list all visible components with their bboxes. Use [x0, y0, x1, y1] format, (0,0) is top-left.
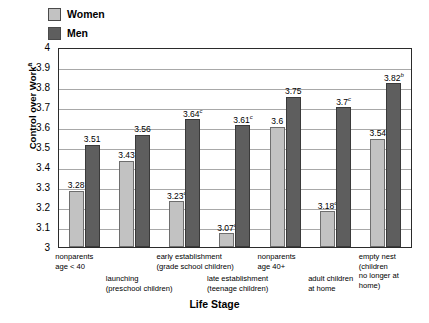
bar-group: 3.63.75 [260, 49, 310, 247]
y-axis-tick-label: 3.8 [22, 82, 50, 93]
category-label-line2: age 40+ [258, 262, 296, 272]
bar-men: 3.64c [185, 119, 200, 247]
bar-chart: Women Men Control over Worka 3.283.513.4… [0, 0, 429, 323]
bar-men: 3.61c [235, 125, 250, 247]
bar-men: 3.82b [386, 83, 401, 247]
x-axis-category-label: nonparentsage 40+ [258, 252, 296, 271]
bar-value-label: 3.23c [167, 190, 187, 201]
x-axis-category-label: adult childrenat home [308, 274, 353, 293]
category-label-line1: empty nest (children [359, 252, 412, 271]
bar-group: 3.23c3.64c [160, 49, 210, 247]
bar-value-label: 3.07c [217, 222, 237, 233]
legend-item-women: Women [48, 6, 105, 23]
bar-value-label: 3.51 [84, 134, 101, 144]
bar-group: 3.543.82b [361, 49, 411, 247]
y-axis-tick-label: 3.9 [22, 62, 50, 73]
bar-men: 3.56 [135, 135, 150, 247]
bar-value-label: 3.6 [271, 116, 283, 126]
category-label-line2: (teenage children) [207, 284, 268, 294]
bar-value-label: 3.54 [370, 128, 387, 138]
legend-item-men: Men [48, 25, 105, 42]
y-axis-tick-label: 3.4 [22, 162, 50, 173]
category-label-line1: launching [106, 274, 173, 284]
bar-men: 3.51 [85, 145, 100, 247]
bar-women: 3.23c [169, 201, 184, 247]
bar-group: 3.07c3.61c [210, 49, 260, 247]
x-axis-title: Life Stage [0, 298, 429, 310]
category-label-line2: at home [308, 284, 353, 294]
bar-group: 3.18c3.7c [310, 49, 360, 247]
y-axis-tick-label: 3.6 [22, 122, 50, 133]
x-axis-category-label: early establishment(grade school childre… [156, 252, 233, 271]
bar-value-label: 3.28 [68, 180, 85, 190]
bar-value-footnote: c [199, 108, 202, 114]
bar-men: 3.75 [286, 97, 301, 247]
category-label-line2: no longer at home) [359, 271, 412, 290]
bar-women: 3.43 [119, 161, 134, 247]
x-axis-category-label: nonparentsage < 40 [55, 252, 93, 271]
bar-men: 3.7c [336, 107, 351, 247]
category-label-line2: age < 40 [55, 262, 93, 272]
category-label-line2: (grade school children) [156, 262, 233, 272]
y-axis-tick-label: 3.7 [22, 102, 50, 113]
category-label-line1: adult children [308, 274, 353, 284]
category-label-line1: late establishment [207, 274, 268, 284]
legend-swatch-women-icon [48, 8, 61, 21]
bar-women: 3.07c [219, 233, 234, 247]
bar-women: 3.28 [69, 191, 84, 247]
bar-value-label: 3.64c [183, 108, 203, 119]
plot-area: 3.283.513.433.563.23c3.64c3.07c3.61c3.63… [58, 48, 412, 248]
chart-legend: Women Men [48, 6, 105, 44]
x-axis-category-label: empty nest (childrenno longer at home) [359, 252, 412, 290]
category-label-line1: early establishment [156, 252, 233, 262]
y-axis-tick-label: 3.2 [22, 202, 50, 213]
y-axis-tick-label: 3 [22, 242, 50, 253]
bar-women: 3.18c [320, 211, 335, 247]
bar-women: 3.6 [270, 127, 285, 247]
bar-group: 3.283.51 [59, 49, 109, 247]
y-axis-tick-label: 4 [22, 42, 50, 53]
legend-label-men: Men [67, 28, 88, 39]
bar-value-label: 3.82b [384, 72, 404, 83]
bar-group: 3.433.56 [109, 49, 159, 247]
bar-value-footnote: b [400, 72, 403, 78]
bar-groups: 3.283.513.433.563.23c3.64c3.07c3.61c3.63… [59, 49, 411, 247]
x-axis-category-label: launching(preschool children) [106, 274, 173, 293]
category-label-line2: (preschool children) [106, 284, 173, 294]
bar-value-label: 3.75 [285, 86, 302, 96]
legend-label-women: Women [67, 9, 105, 20]
x-axis-category-labels: nonparentsage < 40launching(preschool ch… [58, 250, 412, 300]
y-axis-tick-label: 3.1 [22, 222, 50, 233]
category-label-line1: nonparents [55, 252, 93, 262]
bar-value-label: 3.18c [318, 200, 338, 211]
bar-value-label: 3.43 [118, 150, 135, 160]
bar-value-label: 3.7c [336, 96, 351, 107]
y-axis-tick-label: 3.3 [22, 182, 50, 193]
bar-value-label: 3.61c [233, 114, 253, 125]
x-axis-category-label: late establishment(teenage children) [207, 274, 268, 293]
category-label-line1: nonparents [258, 252, 296, 262]
bar-value-footnote: c [250, 114, 253, 120]
bar-value-footnote: c [348, 96, 351, 102]
bar-women: 3.54 [370, 139, 385, 247]
y-axis-tick-label: 3.5 [22, 142, 50, 153]
legend-swatch-men-icon [48, 27, 61, 40]
bar-value-label: 3.56 [134, 124, 151, 134]
